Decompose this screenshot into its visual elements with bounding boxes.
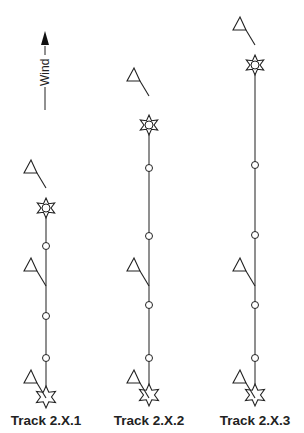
flag-icon — [24, 160, 46, 188]
waypoint-marker — [146, 302, 153, 309]
end-star-icon — [246, 55, 263, 75]
waypoint-marker — [252, 162, 259, 169]
waypoint-marker — [43, 355, 50, 362]
end-star-icon — [140, 115, 157, 135]
wind-indicator: Wind — [38, 31, 52, 110]
track-1 — [24, 160, 56, 408]
flag-icon — [127, 258, 149, 286]
flag-icon — [233, 17, 255, 45]
waypoint-marker — [252, 355, 259, 362]
waypoint-marker — [146, 355, 153, 362]
track-2 — [127, 68, 159, 406]
track-label-2: Track 2.X.2 — [114, 413, 185, 428]
waypoint-marker — [252, 232, 259, 239]
flag-icon — [127, 68, 149, 96]
waypoint-marker — [146, 233, 153, 240]
waypoint-marker — [146, 165, 153, 172]
waypoint-marker — [252, 302, 259, 309]
track-diagram: Wind Track 2.X.1 Track 2.X.2 Track 2.X.3 — [0, 0, 304, 433]
arrow-up-icon — [41, 31, 49, 45]
wind-label: Wind — [38, 59, 52, 86]
end-star-icon — [37, 198, 54, 218]
flag-icon — [233, 258, 255, 286]
flag-icon — [24, 258, 46, 286]
track-label-1: Track 2.X.1 — [11, 413, 82, 428]
track-label-3: Track 2.X.3 — [220, 413, 291, 428]
waypoint-marker — [43, 243, 50, 250]
waypoint-marker — [43, 313, 50, 320]
track-3 — [233, 17, 265, 406]
